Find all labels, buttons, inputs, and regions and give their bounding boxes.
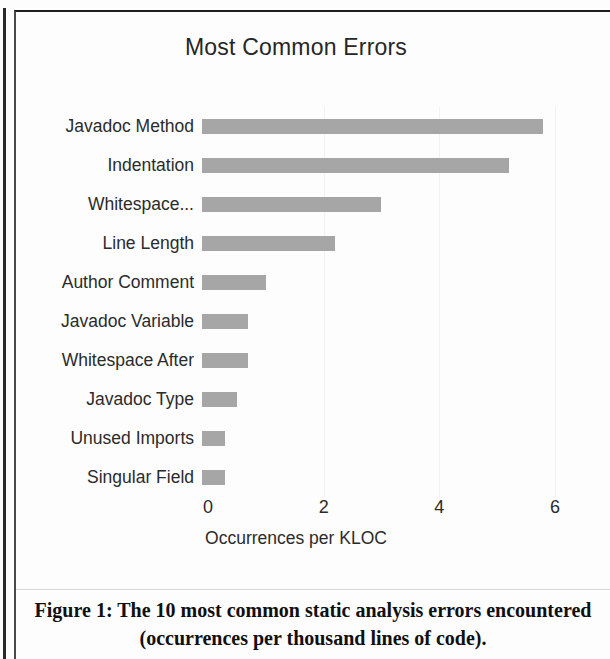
figure-page: Most Common Errors Javadoc MethodIndenta… — [0, 0, 610, 659]
bar — [202, 236, 335, 251]
plot-area: Javadoc MethodIndentationWhitespace...Li… — [16, 107, 576, 497]
category-label: Whitespace After — [16, 350, 202, 371]
bar-row: Singular Field — [16, 458, 576, 497]
bar-track — [202, 263, 576, 302]
bar-track — [202, 146, 576, 185]
bar-track — [202, 458, 576, 497]
x-tick-label: 0 — [203, 497, 213, 518]
bar-row: Indentation — [16, 146, 576, 185]
caption-divider — [16, 589, 610, 590]
x-axis-title: Occurrences per KLOC — [16, 528, 576, 549]
chart-title: Most Common Errors — [16, 34, 576, 61]
bar-track — [202, 380, 576, 419]
category-label: Javadoc Variable — [16, 311, 202, 332]
bar-row: Javadoc Method — [16, 107, 576, 146]
bar-row: Javadoc Type — [16, 380, 576, 419]
bar-track — [202, 107, 576, 146]
category-label: Indentation — [16, 155, 202, 176]
category-label: Javadoc Method — [16, 116, 202, 137]
x-tick-label: 4 — [434, 497, 444, 518]
bar — [202, 197, 381, 212]
page-gutter-rule — [3, 8, 6, 659]
bar — [202, 119, 543, 134]
x-tick-label: 6 — [550, 497, 560, 518]
x-tick-label: 2 — [319, 497, 329, 518]
bar-rows: Javadoc MethodIndentationWhitespace...Li… — [16, 107, 576, 497]
bar-row: Whitespace After — [16, 341, 576, 380]
bar-track — [202, 185, 576, 224]
bar-row: Line Length — [16, 224, 576, 263]
bar-row: Javadoc Variable — [16, 302, 576, 341]
bar-track — [202, 341, 576, 380]
bar-track — [202, 302, 576, 341]
category-label: Singular Field — [16, 467, 202, 488]
bar — [202, 158, 509, 173]
bar — [202, 431, 225, 446]
category-label: Author Comment — [16, 272, 202, 293]
bar-track — [202, 224, 576, 263]
x-axis: 0246 — [16, 497, 576, 527]
figure-caption: Figure 1: The 10 most common static anal… — [20, 596, 606, 652]
bar — [202, 314, 248, 329]
bar — [202, 275, 266, 290]
bar-row: Unused Imports — [16, 419, 576, 458]
bar — [202, 470, 225, 485]
category-label: Unused Imports — [16, 428, 202, 449]
category-label: Whitespace... — [16, 194, 202, 215]
bar — [202, 392, 237, 407]
category-label: Line Length — [16, 233, 202, 254]
bar — [202, 353, 248, 368]
category-label: Javadoc Type — [16, 389, 202, 410]
bar-track — [202, 419, 576, 458]
bar-row: Whitespace... — [16, 185, 576, 224]
bar-chart: Most Common Errors Javadoc MethodIndenta… — [16, 12, 596, 580]
bar-row: Author Comment — [16, 263, 576, 302]
